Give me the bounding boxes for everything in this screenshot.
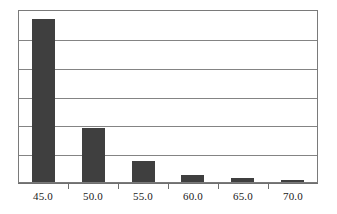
x-axis-tick-label: 45.0: [18, 189, 68, 205]
bar[interactable]: [132, 161, 155, 182]
plot-area: [19, 11, 317, 182]
bar[interactable]: [231, 178, 254, 182]
x-axis-tick-label: 50.0: [68, 189, 118, 205]
x-axis-tick-label: 55.0: [118, 189, 168, 205]
bar[interactable]: [32, 19, 55, 182]
plot-frame: [18, 10, 318, 183]
bar-chart: 45.050.055.060.065.070.0: [0, 0, 337, 214]
bar-slot: [69, 11, 119, 182]
bar[interactable]: [281, 180, 304, 182]
bar[interactable]: [82, 128, 105, 182]
x-axis-tick-label: 60.0: [168, 189, 218, 205]
x-axis-tick-label: 70.0: [268, 189, 318, 205]
x-axis-tick-label: 65.0: [218, 189, 268, 205]
bar-slot: [118, 11, 168, 182]
bar-slot: [168, 11, 218, 182]
bar-slot: [267, 11, 317, 182]
x-axis-labels: 45.050.055.060.065.070.0: [18, 189, 318, 205]
bar-slot: [19, 11, 69, 182]
bar[interactable]: [181, 175, 204, 182]
bar-slot: [218, 11, 268, 182]
